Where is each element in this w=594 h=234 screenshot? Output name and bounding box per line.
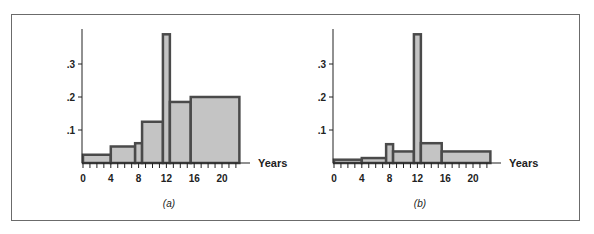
x-tick-label: 4 <box>359 173 365 184</box>
histogram-bar <box>421 143 442 163</box>
y-tick-label: .1 <box>67 125 76 136</box>
histogram-bar <box>393 151 414 163</box>
histogram-bar <box>191 97 240 163</box>
y-tick-label: .3 <box>67 59 76 70</box>
histogram-bar <box>170 102 191 163</box>
chart-panel-a: .1.2.3048121620Years(a) <box>67 29 288 209</box>
histogram-bar <box>83 155 111 163</box>
histogram-bar <box>142 122 163 163</box>
y-tick-label: .1 <box>318 125 327 136</box>
x-tick-label: 8 <box>387 173 393 184</box>
histogram-bar <box>362 158 386 163</box>
x-tick-label: 8 <box>136 173 142 184</box>
x-axis-title: Years <box>509 157 538 169</box>
x-axis-title: Years <box>258 157 287 169</box>
chart-panel-b: .1.2.3048121620Years(b) <box>318 29 539 209</box>
x-tick-label: 20 <box>216 173 228 184</box>
x-tick-label: 20 <box>467 173 479 184</box>
histogram-bar <box>111 147 135 164</box>
x-tick-label: 12 <box>161 173 173 184</box>
x-tick-label: 16 <box>440 173 452 184</box>
x-tick-label: 16 <box>189 173 201 184</box>
x-tick-label: 4 <box>108 173 114 184</box>
histogram-figure: .1.2.3048121620Years(a).1.2.3048121620Ye… <box>0 0 594 234</box>
panel-label: (b) <box>414 198 426 209</box>
x-tick-label: 12 <box>412 173 424 184</box>
panel-label: (a) <box>163 198 175 209</box>
x-tick-label: 0 <box>331 173 337 184</box>
x-tick-label: 0 <box>80 173 86 184</box>
y-tick-label: .2 <box>318 92 327 103</box>
y-tick-label: .3 <box>318 59 327 70</box>
histogram-bar <box>442 151 491 163</box>
y-tick-label: .2 <box>67 92 76 103</box>
